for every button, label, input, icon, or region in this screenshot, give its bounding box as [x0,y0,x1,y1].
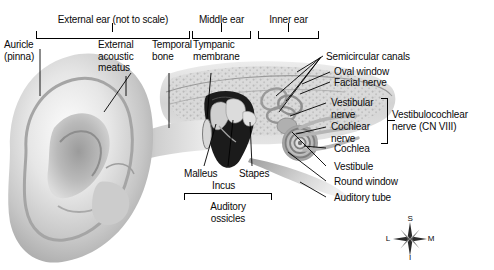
vestibulocochlear-bracket [381,98,388,144]
region-label-external-ear: External ear (not to scale) [36,14,190,26]
label-vestibule: Vestibule [334,161,373,173]
label-incus: Incus [212,180,235,192]
ear-anatomy-figure: External ear (not to scale) Middle ear I… [0,0,494,270]
region-bracket-inner-ear [258,31,319,39]
region-label-inner-ear: Inner ear [254,14,323,26]
label-auditory-tube: Auditory tube [334,192,391,204]
label-auricle: Auricle (pinna) [4,39,34,62]
label-external-acoustic-meatus: External acoustic meatus [98,39,134,74]
label-semicircular-canals: Semicircular canals [326,51,410,63]
compass-label-medial: M [425,233,437,245]
label-oval-window: Oval window [334,66,389,78]
label-temporal-bone: Temporal bone [152,39,192,62]
compass-label-superior: S [404,213,416,225]
region-bracket-middle-ear [192,31,251,39]
region-label-middle-ear: Middle ear [186,14,257,26]
compass-label-inferior: I [404,252,416,264]
label-facial-nerve: Facial nerve [334,77,387,89]
label-stapes: Stapes [239,168,269,180]
orientation-compass: S I L M [386,216,434,262]
auditory-ossicles-bracket [184,193,272,200]
label-cochlea: Cochlea [334,143,370,155]
label-auditory-ossicles: Auditory ossicles [184,201,272,224]
compass-label-lateral: L [382,233,394,245]
label-malleus: Malleus [184,168,217,180]
label-cochlear-nerve: Cochlear nerve [331,121,370,144]
label-tympanic-membrane: Tympanic membrane [193,39,240,62]
label-vestibular-nerve: Vestibular nerve [331,97,373,120]
label-round-window: Round window [334,176,398,188]
region-bracket-external-ear [36,31,190,39]
label-vestibulocochlear-nerve: Vestibulocochlear nerve (CN VIII) [392,109,468,132]
